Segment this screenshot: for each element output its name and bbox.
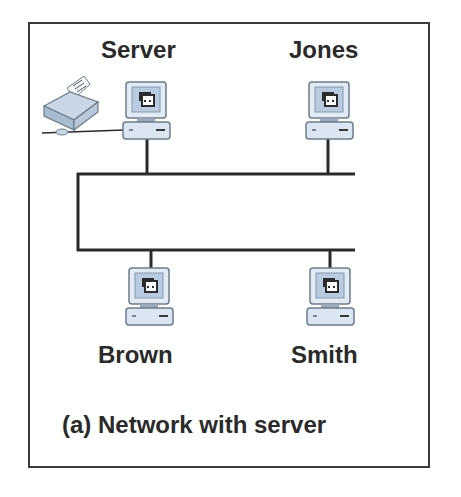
jones-computer-icon[interactable] [306,82,353,139]
node-label-brown: Brown [98,341,173,369]
network-bus [77,139,355,268]
node-label-smith: Smith [291,341,358,369]
node-label-server: Server [101,36,176,64]
printer-cable [42,130,124,133]
node-label-jones: Jones [289,36,358,64]
diagram-caption: (a) Network with server [62,411,326,439]
brown-computer-icon[interactable] [126,268,173,325]
server-computer-icon[interactable] [123,82,170,139]
printer-icon [44,76,98,135]
smith-computer-icon[interactable] [307,268,354,325]
